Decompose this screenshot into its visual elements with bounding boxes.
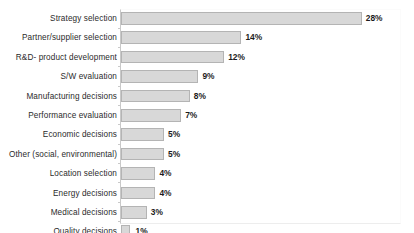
bar bbox=[121, 12, 362, 25]
value-label: 14% bbox=[245, 31, 262, 44]
axis-tick bbox=[118, 202, 121, 203]
bar bbox=[121, 90, 190, 103]
bar bbox=[121, 225, 130, 233]
value-label: 12% bbox=[228, 51, 245, 64]
axis-tick bbox=[118, 144, 121, 145]
bar bbox=[121, 109, 181, 122]
axis-tick bbox=[118, 86, 121, 87]
bar bbox=[121, 31, 241, 44]
bar bbox=[121, 148, 164, 161]
category-label: Other (social, environmental) bbox=[9, 145, 117, 164]
axis-tick bbox=[118, 182, 121, 183]
bar bbox=[121, 51, 224, 64]
axis-tick bbox=[118, 221, 121, 222]
value-label: 9% bbox=[202, 70, 214, 83]
value-label: 4% bbox=[159, 187, 171, 200]
table-row: Medical decisions 3% bbox=[0, 203, 414, 222]
value-label: 8% bbox=[194, 90, 206, 103]
category-label: Medical decisions bbox=[51, 203, 117, 222]
value-label: 4% bbox=[159, 167, 171, 180]
bar bbox=[121, 70, 198, 83]
axis-tick bbox=[118, 47, 121, 48]
category-label: Economic decisions bbox=[43, 125, 117, 144]
category-label: Location selection bbox=[50, 164, 117, 183]
bar-chart: Strategy selection 28% Partner/supplier … bbox=[0, 0, 414, 233]
bar bbox=[121, 206, 147, 219]
table-row: Quality decisions 1% bbox=[0, 222, 414, 233]
category-label: Energy decisions bbox=[53, 184, 117, 203]
bar bbox=[121, 167, 155, 180]
value-label: 5% bbox=[168, 148, 180, 161]
category-label: Manufacturing decisions bbox=[26, 87, 117, 106]
axis-tick bbox=[118, 66, 121, 67]
value-label: 1% bbox=[136, 225, 148, 233]
table-row: Energy decisions 4% bbox=[0, 184, 414, 203]
table-row: Location selection 4% bbox=[0, 164, 414, 183]
bar bbox=[121, 187, 155, 200]
axis-tick bbox=[118, 124, 121, 125]
table-row: Strategy selection 28% bbox=[0, 9, 414, 28]
axis-tick bbox=[118, 28, 121, 29]
axis-tick bbox=[118, 105, 121, 106]
bar-rows: Strategy selection 28% Partner/supplier … bbox=[0, 9, 414, 233]
value-label: 3% bbox=[151, 206, 163, 219]
table-row: Manufacturing decisions 8% bbox=[0, 87, 414, 106]
category-label: Quality decisions bbox=[53, 222, 117, 233]
table-row: Partner/supplier selection 14% bbox=[0, 28, 414, 47]
table-row: Performance evaluation 7% bbox=[0, 106, 414, 125]
category-label: Partner/supplier selection bbox=[22, 28, 117, 47]
table-row: Other (social, environmental) 5% bbox=[0, 145, 414, 164]
value-label: 28% bbox=[366, 12, 383, 25]
category-label: R&D- product development bbox=[16, 48, 117, 67]
value-label: 5% bbox=[168, 128, 180, 141]
table-row: R&D- product development 12% bbox=[0, 48, 414, 67]
axis-tick bbox=[118, 163, 121, 164]
value-label: 7% bbox=[185, 109, 197, 122]
table-row: Economic decisions 5% bbox=[0, 125, 414, 144]
bar bbox=[121, 128, 164, 141]
category-label: Strategy selection bbox=[50, 9, 117, 28]
table-row: S/W evaluation 9% bbox=[0, 67, 414, 86]
category-label: Performance evaluation bbox=[28, 106, 117, 125]
category-label: S/W evaluation bbox=[61, 67, 117, 86]
